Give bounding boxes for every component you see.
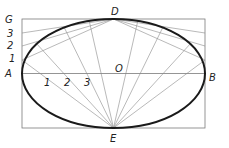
construction-line-e-axis4 xyxy=(89,20,114,128)
label-left-1: 1 xyxy=(9,53,15,64)
construction-line-e-axis1 xyxy=(22,60,114,128)
label-left-2: 2 xyxy=(7,40,13,51)
label-e: E xyxy=(110,133,117,144)
label-axis-1: 1 xyxy=(44,77,50,88)
label-d: D xyxy=(111,6,119,17)
construction-line-d-left2 xyxy=(22,19,114,46)
construction-line-e-right1 xyxy=(114,60,206,128)
label-axis-3: 3 xyxy=(84,77,90,88)
label-o: O xyxy=(115,63,123,74)
label-b: B xyxy=(209,72,216,83)
construction-line-e-right4 xyxy=(114,20,139,128)
label-g: G xyxy=(5,14,13,25)
label-a: A xyxy=(4,68,12,79)
ellipse-construction-diagram: G 3 2 1 A D O B E 1 2 3 xyxy=(0,0,229,148)
label-left-3: 3 xyxy=(7,28,13,39)
construction-line-e-right3 xyxy=(114,27,164,128)
construction-line-e-right2 xyxy=(114,43,192,128)
construction-line-d-right2 xyxy=(114,19,206,46)
label-axis-2: 2 xyxy=(64,77,70,88)
